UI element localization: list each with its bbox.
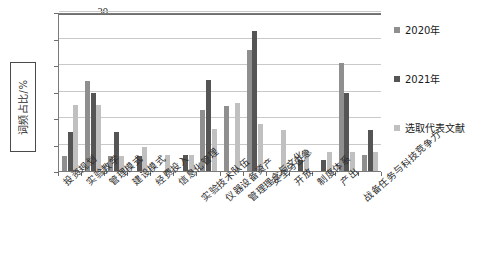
legend-swatch-icon	[394, 27, 400, 33]
legend-label: 2021年	[405, 71, 440, 86]
legend-swatch-icon	[394, 125, 400, 131]
legend-label: 选取代表文献	[405, 120, 465, 135]
legend-label: 2020年	[405, 22, 440, 37]
legend-item: 选取代表文献	[394, 120, 489, 135]
legend-item: 2020年	[394, 22, 489, 37]
chart-legend: 2020年2021年选取代表文献	[394, 22, 489, 169]
legend-item: 2021年	[394, 71, 489, 86]
chart-figure: 词频占比/% 051015202530 投资规划实验教学管理模式建设模式经费投入…	[0, 0, 493, 260]
legend-swatch-icon	[394, 76, 400, 82]
